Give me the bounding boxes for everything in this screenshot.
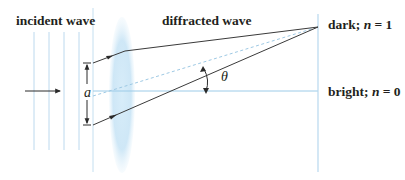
angle-arc (204, 69, 208, 91)
bright-fringe-label: bright; n = 0 (328, 85, 401, 99)
incident-wave-label: incident wave (16, 14, 95, 28)
slit-width-label: a (83, 86, 92, 100)
dark-fringe-label: dark; n = 1 (328, 18, 392, 32)
diffracted-wave-label: diffracted wave (162, 14, 252, 28)
lens (109, 17, 135, 173)
dark-label-suffix: = 1 (371, 17, 392, 32)
dark-label-prefix: dark; (328, 17, 364, 32)
angle-arrow-up-icon (200, 66, 206, 72)
angle-theta-label: θ (221, 70, 228, 84)
bright-label-suffix: = 0 (379, 84, 400, 99)
bright-label-prefix: bright; (328, 84, 372, 99)
